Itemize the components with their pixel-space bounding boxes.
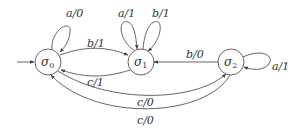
state-s0: σ0 <box>35 49 61 75</box>
edge-s1-loop-b <box>143 22 160 51</box>
edge-s0-loop <box>52 26 70 52</box>
state-s1: σ1 <box>128 49 154 75</box>
edge-label: b/0 <box>186 48 204 61</box>
edge-label: c/0 <box>137 96 154 109</box>
edge-label: c/1 <box>87 76 104 89</box>
edge-s2-loop <box>243 53 270 69</box>
edge-label: a/1 <box>118 7 135 20</box>
edge-label: c/0 <box>137 114 154 127</box>
state-s2: σ2 <box>218 49 244 75</box>
edge-label: a/0 <box>66 7 83 20</box>
state-diagram: a/0 b/1 a/1 b/1 b/0 a/1 c/1 c/0 c/0 σ0 σ… <box>0 0 295 132</box>
edge-label: b/1 <box>87 37 105 50</box>
edge-s1-loop-a <box>121 22 137 50</box>
edge-label: a/1 <box>272 60 289 73</box>
edge-label: b/1 <box>152 7 170 20</box>
